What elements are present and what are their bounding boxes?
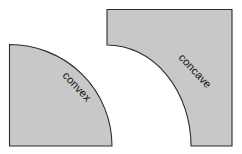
figure-canvas: convex concave xyxy=(0,0,242,154)
shapes-diagram: convex concave xyxy=(0,0,242,154)
